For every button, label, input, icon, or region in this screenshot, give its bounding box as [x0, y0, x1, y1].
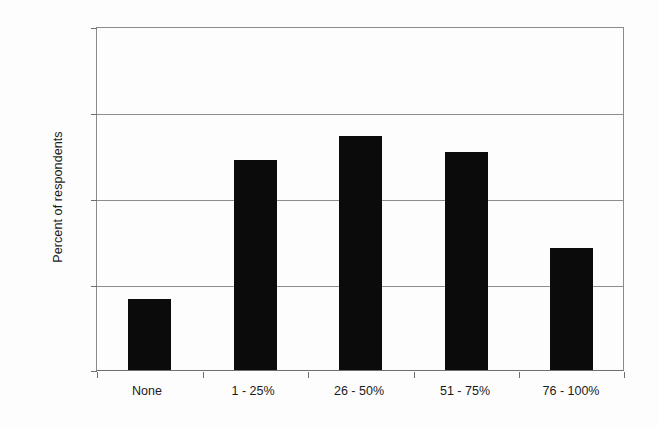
bar-none[interactable]	[128, 299, 171, 370]
x-tick-mark-3	[414, 372, 415, 378]
bar-51-75[interactable]	[445, 152, 488, 370]
x-tick-mark-5	[624, 372, 625, 378]
x-tick-label-26-50: 26 - 50%	[299, 384, 419, 398]
x-tick-label-76-100: 76 - 100%	[511, 384, 631, 398]
x-tick-mark-4	[519, 372, 520, 378]
x-tick-mark-0	[97, 372, 98, 378]
bar-26-50[interactable]	[339, 136, 382, 370]
x-tick-label-51-75: 51 - 75%	[405, 384, 525, 398]
y-axis-title: Percent of respondents	[51, 87, 65, 307]
x-tick-mark-2	[308, 372, 309, 378]
x-tick-label-none: None	[87, 384, 207, 398]
bar-76-100[interactable]	[550, 248, 593, 370]
x-tick-label-1-25: 1 - 25%	[193, 384, 313, 398]
bar-chart-figure: Percent of respondents 40% 30% 20% 10% 0…	[0, 0, 659, 427]
plot-area	[96, 27, 624, 371]
x-tick-mark-1	[203, 372, 204, 378]
bar-1-25[interactable]	[234, 160, 277, 370]
bars-layer	[97, 28, 623, 370]
